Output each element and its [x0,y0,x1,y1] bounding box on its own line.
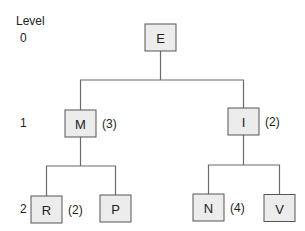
edge-m-p [81,166,116,195]
node-label: P [111,202,120,217]
level-header: Level [16,14,45,28]
level-label-1: 1 [20,116,27,130]
edge-i-n [209,165,244,194]
node-annotation: (2) [68,203,83,217]
node-label: E [156,31,165,46]
edge-m-r [47,166,81,196]
node-label: I [242,115,246,130]
node-label: M [75,117,86,132]
node-e: E [145,24,176,51]
node-m: M(3) [65,110,117,137]
node-annotation: (3) [102,117,117,131]
node-v: V [264,195,295,222]
node-annotation: (2) [265,115,280,129]
tree-diagram: Level 0 1 2 EM(3)I(2)R(2)PN(4)V [0,0,305,231]
node-r: R(2) [31,196,83,223]
level-label-0: 0 [20,31,27,45]
node-annotation: (4) [230,201,245,215]
node-label: R [42,203,51,218]
edge-e-m [81,80,161,110]
level-label-2: 2 [20,202,27,216]
node-label: N [204,201,213,216]
edge-i-v [244,165,280,195]
node-p: P [100,195,131,222]
node-i: I(2) [228,108,280,135]
node-n: N(4) [193,194,245,221]
node-label: V [275,202,284,217]
edge-e-i [161,80,244,108]
